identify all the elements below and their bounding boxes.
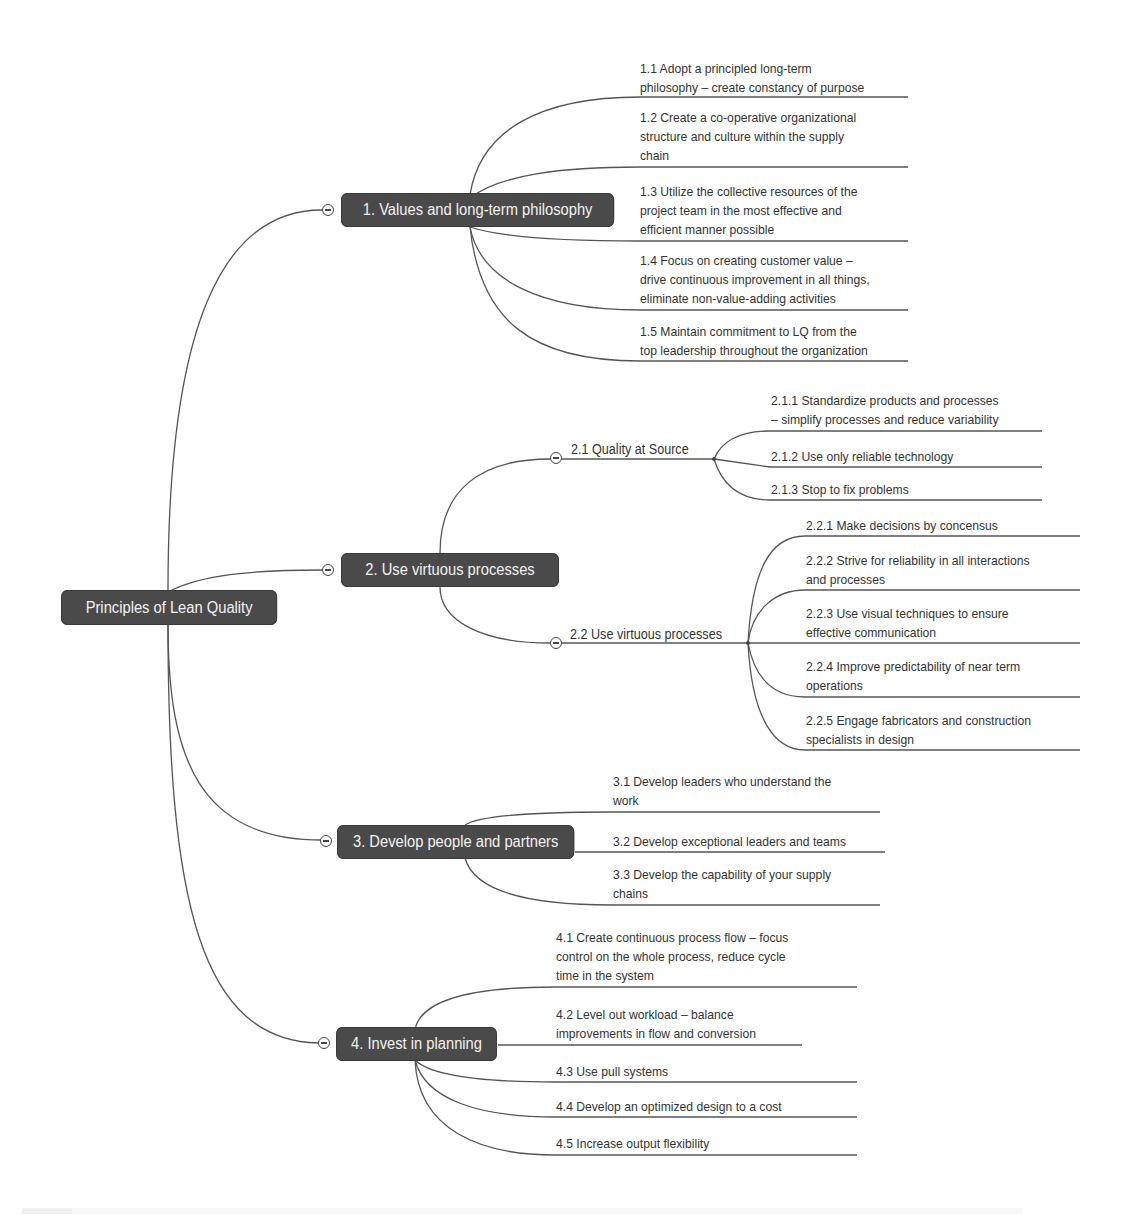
leaf-4-4[interactable]: 4.4 Develop an optimized design to a cos… — [556, 1097, 782, 1116]
leaf-1-2[interactable]: 1.2 Create a co-operative organizational… — [640, 108, 856, 165]
subbranch-2-2[interactable]: 2.2 Use virtuous processes — [570, 625, 722, 643]
collapse-toggle-icon[interactable] — [320, 835, 332, 847]
mind-map-canvas: Principles of Lean Quality 1. Values and… — [0, 0, 1132, 1216]
root-label: Principles of Lean Quality — [86, 598, 253, 618]
branch-label: 3. Develop people and partners — [353, 832, 558, 852]
branch-node-values[interactable]: 1. Values and long-term philosophy — [341, 193, 614, 227]
leaf-2-2-2[interactable]: 2.2.2 Strive for reliability in all inte… — [806, 551, 1030, 589]
leaf-1-5[interactable]: 1.5 Maintain commitment to LQ from the t… — [640, 322, 868, 360]
leaf-3-1[interactable]: 3.1 Develop leaders who understand the w… — [613, 772, 831, 810]
collapse-toggle-icon[interactable] — [322, 564, 334, 576]
branch-label: 2. Use virtuous processes — [365, 560, 534, 580]
branch-label: 4. Invest in planning — [351, 1034, 482, 1054]
leaf-2-1-2[interactable]: 2.1.2 Use only reliable technology — [771, 447, 953, 466]
leaf-2-2-4[interactable]: 2.2.4 Improve predictability of near ter… — [806, 657, 1020, 695]
leaf-2-1-1[interactable]: 2.1.1 Standardize products and processes… — [771, 391, 999, 429]
collapse-toggle-icon[interactable] — [318, 1037, 330, 1049]
collapse-toggle-icon[interactable] — [550, 637, 562, 649]
branch-node-invest-planning[interactable]: 4. Invest in planning — [336, 1027, 497, 1061]
leaf-2-2-3[interactable]: 2.2.3 Use visual techniques to ensure ef… — [806, 604, 1009, 642]
leaf-2-2-1[interactable]: 2.2.1 Make decisions by concensus — [806, 516, 998, 535]
collapse-toggle-icon[interactable] — [550, 452, 562, 464]
branch-node-virtuous-processes[interactable]: 2. Use virtuous processes — [341, 553, 559, 587]
leaf-3-3[interactable]: 3.3 Develop the capability of your suppl… — [613, 865, 831, 903]
footer-divider — [22, 1208, 1022, 1214]
subbranch-2-1[interactable]: 2.1 Quality at Source — [571, 440, 689, 458]
leaf-1-4[interactable]: 1.4 Focus on creating customer value – d… — [640, 251, 870, 308]
leaf-4-2[interactable]: 4.2 Level out workload – balance improve… — [556, 1005, 756, 1043]
leaf-4-5[interactable]: 4.5 Increase output flexibility — [556, 1134, 709, 1153]
branch-node-people-partners[interactable]: 3. Develop people and partners — [337, 825, 574, 859]
leaf-2-2-5[interactable]: 2.2.5 Engage fabricators and constructio… — [806, 711, 1031, 749]
leaf-1-1[interactable]: 1.1 Adopt a principled long-term philoso… — [640, 59, 864, 97]
leaf-4-1[interactable]: 4.1 Create continuous process flow – foc… — [556, 928, 788, 985]
root-node[interactable]: Principles of Lean Quality — [61, 590, 277, 625]
collapse-toggle-icon[interactable] — [322, 204, 334, 216]
branch-label: 1. Values and long-term philosophy — [363, 200, 593, 220]
leaf-1-3[interactable]: 1.3 Utilize the collective resources of … — [640, 182, 857, 239]
leaf-4-3[interactable]: 4.3 Use pull systems — [556, 1062, 668, 1081]
leaf-2-1-3[interactable]: 2.1.3 Stop to fix problems — [771, 480, 909, 499]
leaf-3-2[interactable]: 3.2 Develop exceptional leaders and team… — [613, 832, 846, 851]
